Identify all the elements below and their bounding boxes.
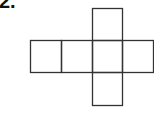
net-square-5: [123, 41, 154, 73]
net-square-1: [93, 9, 123, 41]
net-square-4: [93, 41, 123, 73]
net-square-3: [62, 41, 93, 73]
net-square-2: [31, 41, 62, 73]
net-square-6: [93, 73, 123, 106]
cube-net-diagram: [0, 0, 154, 116]
